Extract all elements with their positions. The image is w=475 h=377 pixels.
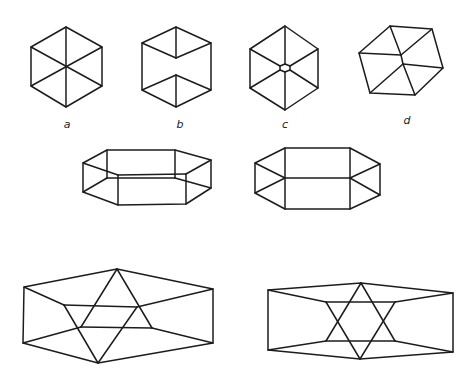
edge	[81, 269, 117, 327]
figure-b: b	[142, 27, 211, 131]
edge	[137, 289, 213, 307]
edge	[83, 163, 118, 175]
outline	[250, 26, 318, 110]
edge	[255, 163, 285, 178]
outline	[23, 269, 213, 363]
edge	[152, 328, 213, 343]
edge	[118, 174, 186, 175]
edge	[290, 49, 318, 66]
figure-label: c	[282, 118, 288, 131]
edge	[64, 305, 98, 363]
edge	[290, 70, 318, 88]
edge	[176, 75, 211, 90]
edge	[81, 327, 152, 328]
edge	[268, 290, 326, 302]
figure-label: b	[177, 118, 184, 131]
edge	[24, 287, 64, 305]
edge	[255, 178, 285, 193]
outline	[268, 283, 453, 359]
edge	[370, 64, 403, 93]
edge	[350, 178, 380, 195]
outline	[359, 26, 443, 95]
figure-prism-right	[255, 148, 380, 209]
figure-star-left	[23, 269, 213, 363]
figure-prism-left	[83, 150, 211, 205]
figure-d: d	[359, 26, 443, 127]
edge	[326, 302, 360, 359]
figure-label: a	[64, 118, 71, 131]
inner-outline	[280, 64, 290, 72]
edge	[395, 341, 453, 352]
edge	[142, 43, 176, 58]
figure-label: d	[404, 114, 412, 127]
edge	[268, 341, 326, 350]
edge	[98, 307, 137, 363]
edge	[23, 327, 81, 343]
edge	[359, 53, 401, 55]
edge	[175, 178, 211, 188]
edge	[403, 64, 443, 68]
edge	[117, 269, 152, 328]
edge	[403, 64, 415, 95]
edge	[250, 49, 280, 66]
edge	[176, 43, 211, 58]
edge	[64, 305, 137, 307]
figure-a: a	[31, 27, 102, 131]
figure-c: c	[250, 26, 318, 131]
edge	[361, 283, 395, 341]
edge	[83, 178, 107, 192]
edge	[350, 164, 380, 178]
edge	[186, 160, 211, 174]
figure-star-right	[268, 283, 453, 359]
edge	[390, 26, 401, 55]
edge	[401, 55, 403, 64]
edge	[250, 70, 280, 88]
figure-canvas: abcd	[0, 0, 475, 377]
edge	[142, 75, 176, 90]
edge	[401, 29, 432, 55]
edge	[395, 293, 453, 302]
